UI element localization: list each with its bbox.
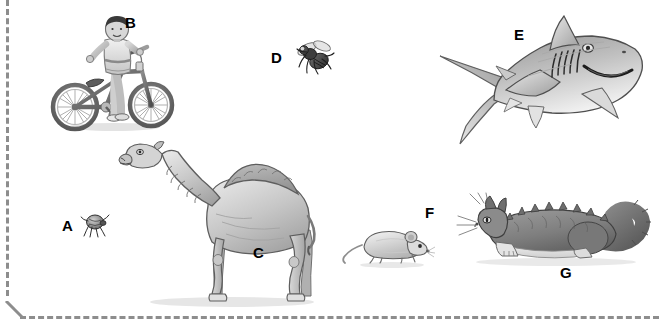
camel-illustration (112, 136, 332, 314)
label-d: D (271, 50, 282, 65)
mouse-illustration (340, 221, 436, 271)
label-c: C (253, 245, 264, 260)
shark-illustration (432, 14, 652, 149)
label-a: A (62, 218, 73, 233)
dashed-cut-line-bottom (20, 316, 659, 319)
organism-figure: B (0, 0, 659, 327)
label-f: F (425, 205, 434, 220)
cat-illustration (456, 192, 651, 270)
dashed-cut-line-left (6, 0, 9, 296)
label-b: B (125, 15, 136, 30)
fly-illustration (296, 36, 336, 78)
label-g: G (560, 265, 572, 280)
label-e: E (514, 27, 524, 42)
boy-on-bicycle-illustration (48, 14, 178, 134)
dashed-cut-corner (4, 301, 24, 319)
tick-illustration (80, 211, 110, 239)
